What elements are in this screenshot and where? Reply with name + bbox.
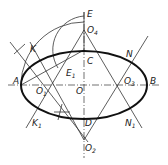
label-N: N xyxy=(126,49,133,59)
label-O2: O2 xyxy=(85,143,96,154)
ellipse-construction-diagram: E O4 C E1 A B O1 O O3 K K1 N N1 D O2 xyxy=(0,0,168,165)
label-A: A xyxy=(12,76,19,86)
label-N1: N1 xyxy=(125,118,136,129)
label-B: B xyxy=(150,76,156,86)
label-O4: O4 xyxy=(87,25,98,36)
label-O3: O3 xyxy=(124,76,135,87)
line-O4-N1 xyxy=(84,30,142,128)
label-O: O xyxy=(76,86,83,96)
label-E1: E1 xyxy=(66,68,76,79)
label-K1: K1 xyxy=(32,118,42,129)
label-D: D xyxy=(85,118,92,128)
label-E: E xyxy=(87,9,93,19)
label-C: C xyxy=(87,56,94,66)
